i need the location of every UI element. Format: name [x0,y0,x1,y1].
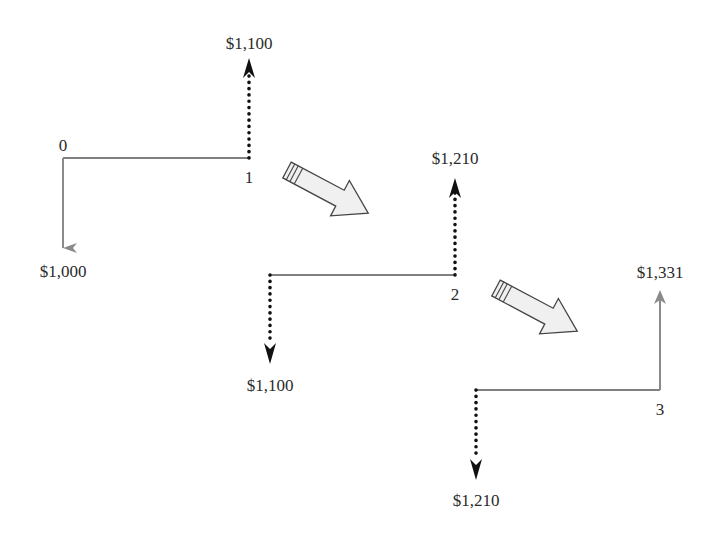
arrowhead-down-icon [264,343,276,364]
inflow-amount-label: $1,100 [226,35,273,52]
arrowhead-down-icon [470,459,482,480]
stage-1-timeline [63,58,255,248]
block-arrow-icon [487,270,587,349]
outflow-amount-label: $1,100 [247,377,294,394]
period-label-2: 2 [451,286,460,303]
arrowhead-up-icon [449,178,461,198]
inflow-amount-label: $1,210 [432,150,479,167]
period-label-3: 3 [656,401,665,418]
period-label-1: 1 [245,169,254,186]
block-arrow-icon [278,152,378,231]
compound-interest-cash-flow-diagram [0,0,715,544]
outflow-amount-label: $1,000 [40,263,87,280]
period-label-0: 0 [59,137,68,154]
inflow-amount-label: $1,331 [637,264,684,281]
outflow-amount-label: $1,210 [453,492,500,509]
